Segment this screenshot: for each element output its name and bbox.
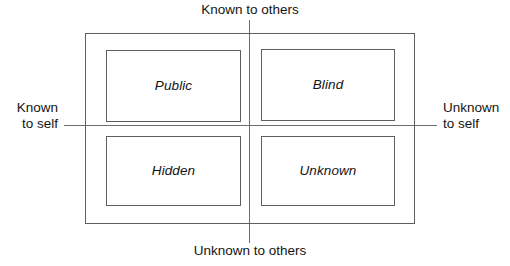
axis-label-top: Known to others: [0, 2, 500, 18]
axis-label-left: Known to self: [0, 100, 58, 132]
johari-window-diagram: Public Blind Hidden Unknown Known to oth…: [0, 0, 510, 266]
quadrant-hidden: Hidden: [106, 136, 241, 206]
axis-label-right: Unknown to self: [443, 100, 510, 132]
quadrant-unknown-label: Unknown: [300, 164, 357, 178]
quadrant-public: Public: [106, 50, 241, 122]
quadrant-unknown: Unknown: [261, 136, 395, 206]
quadrant-hidden-label: Hidden: [152, 164, 195, 178]
axis-label-right-line2: to self: [443, 116, 510, 132]
axis-label-bottom: Unknown to others: [0, 243, 500, 259]
axis-label-left-line1: Known: [0, 100, 58, 116]
axis-label-right-line1: Unknown: [443, 100, 510, 116]
quadrant-blind-label: Blind: [313, 78, 344, 92]
quadrant-public-label: Public: [155, 79, 192, 93]
axis-label-left-line2: to self: [0, 116, 58, 132]
quadrant-blind: Blind: [261, 49, 395, 121]
